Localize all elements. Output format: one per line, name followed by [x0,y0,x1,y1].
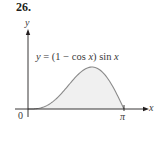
y-axis-label: y [25,17,29,28]
formula-part: = (1 − cos [41,51,89,62]
function-label: y = (1 − cos x) sin x [36,51,119,62]
formula-part: ) sin [93,51,114,62]
shaded-area [28,67,124,109]
pi-tick-label: π [120,111,125,122]
x-axis-label: x [149,102,153,113]
chart-plot [0,0,158,157]
formula-var: x [114,51,119,62]
y-axis-arrow-icon [26,29,30,35]
origin-tick-label: 0 [18,110,23,121]
